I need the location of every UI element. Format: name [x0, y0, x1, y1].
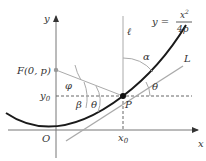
parabola-equation: y = x2 4p [151, 8, 192, 34]
svg-text:4p: 4p [176, 24, 189, 34]
theta-left-label: θ [91, 99, 97, 110]
origin-label: O [42, 133, 50, 144]
x-axis-label: x [198, 138, 204, 149]
phi-label: φ [65, 80, 72, 91]
point-P-label: P [124, 99, 132, 110]
x0-label: x0 [118, 132, 129, 145]
beta-label: β [75, 99, 82, 110]
theta-right-label: θ [152, 81, 158, 92]
focus-label: F(0, p) [16, 65, 51, 76]
y-axis-label: y [43, 13, 50, 24]
svg-text:x2: x2 [180, 8, 189, 20]
parabola-diagram: y x O F(0, p) P y0 x0 ℓ L α θ φ β θ y = … [0, 0, 206, 161]
focus-point [54, 68, 58, 72]
y0-label: y0 [39, 90, 51, 103]
svg-text:y =: y = [151, 16, 169, 27]
beta-arc [84, 82, 87, 108]
tangent-L-label: L [183, 53, 191, 64]
line-l-label: ℓ [127, 26, 131, 37]
alpha-label: α [143, 51, 150, 62]
